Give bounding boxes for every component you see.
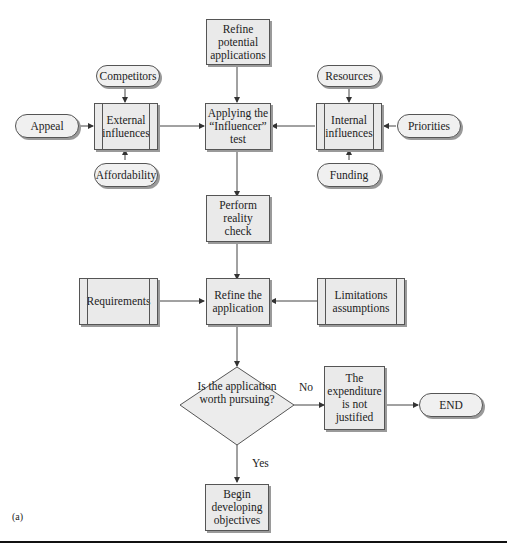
requirements-node: Requirements xyxy=(79,278,158,325)
bottom-rule xyxy=(0,541,507,543)
no-label: No xyxy=(299,381,313,393)
priorities-node: Priorities xyxy=(397,114,461,138)
internal-influences-node: Internal influences xyxy=(316,103,382,150)
limitations-assumptions-node: Limitations assumptions xyxy=(317,278,405,325)
end-node: END xyxy=(419,393,483,417)
expenditure-not-justified: The expenditure is not justified xyxy=(324,366,385,430)
competitors-node: Competitors xyxy=(96,65,160,87)
appeal-node: Appeal xyxy=(15,114,79,138)
refine-the-application: Refine the application xyxy=(206,278,270,325)
connectors xyxy=(0,0,507,552)
perform-reality-check: Perform reality check xyxy=(206,195,270,242)
external-influences-node: External influences xyxy=(94,103,158,150)
decision-diamond xyxy=(180,367,294,445)
funding-node: Funding xyxy=(317,163,381,187)
refine-potential-applications: Refine potential applications xyxy=(206,19,270,65)
decision-text: Is the application worth pursuing? xyxy=(197,380,277,406)
figure-caption: (a) xyxy=(12,511,23,522)
begin-developing-objectives: Begin developing objectives xyxy=(205,484,269,531)
affordability-node: Affordability xyxy=(94,163,158,187)
resources-node: Resources xyxy=(317,65,381,87)
yes-label: Yes xyxy=(252,457,269,469)
applying-influencer-test: Applying the “Influencer” test xyxy=(205,103,271,150)
